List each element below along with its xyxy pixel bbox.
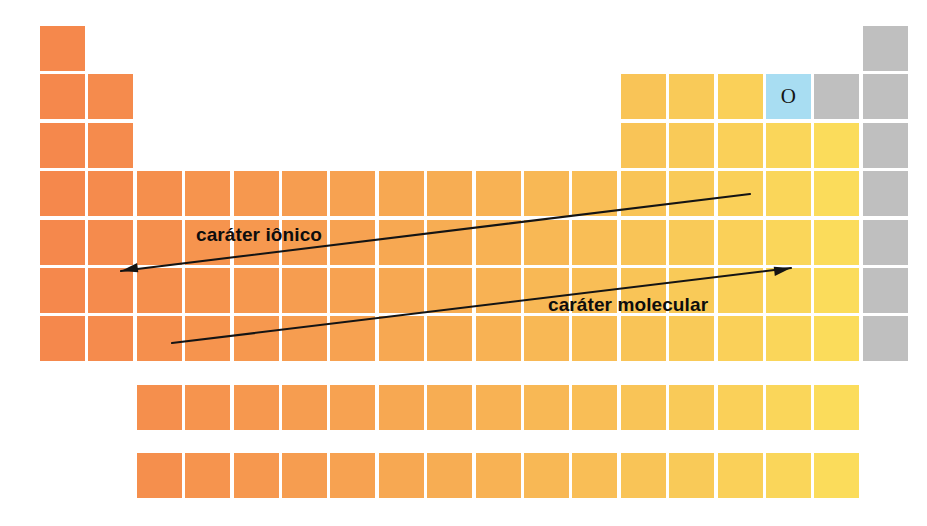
actinides-cell-10 (572, 453, 617, 498)
periodic-cell-r6-c4 (185, 268, 230, 313)
periodic-cell-r3-c13 (621, 123, 666, 168)
periodic-cell-r4-c13 (621, 171, 666, 216)
periodic-cell-r4-c9 (427, 171, 472, 216)
noble-gas-cell-r5 (863, 220, 908, 265)
lanthanides-cell-9 (524, 385, 569, 430)
periodic-cell-r7-c2 (88, 316, 133, 361)
periodic-cell-r5-c14 (669, 220, 714, 265)
periodic-cell-r7-c4 (185, 316, 230, 361)
periodic-cell-r4-c17 (814, 171, 859, 216)
lanthanides-cell-11 (621, 385, 666, 430)
periodic-cell-r7-c17 (814, 316, 859, 361)
periodic-cell-r4-c4 (185, 171, 230, 216)
periodic-cell-r5-c3 (137, 220, 182, 265)
periodic-cell-r5-c2 (88, 220, 133, 265)
actinides-cell-4 (282, 453, 327, 498)
noble-gas-cell-r2 (863, 74, 908, 119)
periodic-cell-r4-c8 (379, 171, 424, 216)
periodic-cell-r2-c14 (669, 74, 714, 119)
periodic-cell-r4-c2 (88, 171, 133, 216)
periodic-cell-r5-c15 (718, 220, 763, 265)
actinides-cell-6 (379, 453, 424, 498)
periodic-cell-r7-c1 (40, 316, 85, 361)
periodic-cell-r6-c7 (330, 268, 375, 313)
lanthanides-cell-1 (137, 385, 182, 430)
periodic-cell-r6-c1 (40, 268, 85, 313)
noble-gas-cell-r7 (863, 316, 908, 361)
periodic-cell-r6-c17 (814, 268, 859, 313)
periodic-cell-r1-c1 (40, 26, 85, 71)
element-symbol-o: O (766, 74, 811, 119)
periodic-cell-r6-c3 (137, 268, 182, 313)
periodic-cell-r4-c12 (572, 171, 617, 216)
periodic-cell-r3-c17 (814, 123, 859, 168)
noble-gas-cell-r6 (863, 268, 908, 313)
periodic-cell-r2-c17 (814, 74, 859, 119)
lanthanides-cell-13 (718, 385, 763, 430)
periodic-cell-r4-c6 (282, 171, 327, 216)
actinides-cell-2 (185, 453, 230, 498)
periodic-cell-r5-c7 (330, 220, 375, 265)
periodic-cell-r3-c14 (669, 123, 714, 168)
periodic-cell-r5-c8 (379, 220, 424, 265)
periodic-cell-r4-c16 (766, 171, 811, 216)
periodic-cell-r6-c15 (718, 268, 763, 313)
periodic-cell-r5-c17 (814, 220, 859, 265)
periodic-cell-r7-c14 (669, 316, 714, 361)
periodic-cell-r7-c5 (234, 316, 279, 361)
periodic-cell-r5-c1 (40, 220, 85, 265)
lanthanides-cell-12 (669, 385, 714, 430)
actinides-cell-9 (524, 453, 569, 498)
periodic-cell-r5-c13 (621, 220, 666, 265)
actinides-cell-15 (814, 453, 859, 498)
actinides-cell-12 (669, 453, 714, 498)
periodic-cell-r4-c5 (234, 171, 279, 216)
actinides-cell-7 (427, 453, 472, 498)
periodic-cell-r7-c3 (137, 316, 182, 361)
periodic-cell-r4-c1 (40, 171, 85, 216)
periodic-cell-r6-c9 (427, 268, 472, 313)
noble-gas-cell-r3 (863, 123, 908, 168)
actinides-cell-8 (476, 453, 521, 498)
highlighted-oxygen-cell: O (766, 74, 811, 119)
lanthanides-cell-10 (572, 385, 617, 430)
periodic-cell-r6-c10 (476, 268, 521, 313)
periodic-cell-r7-c11 (524, 316, 569, 361)
periodic-cell-r7-c6 (282, 316, 327, 361)
periodic-cell-r4-c14 (669, 171, 714, 216)
actinides-cell-11 (621, 453, 666, 498)
periodic-cell-r7-c8 (379, 316, 424, 361)
periodic-cell-r7-c13 (621, 316, 666, 361)
lanthanides-cell-2 (185, 385, 230, 430)
periodic-cell-r7-c10 (476, 316, 521, 361)
periodic-cell-r2-c15 (718, 74, 763, 119)
periodic-cell-r3-c1 (40, 123, 85, 168)
periodic-cell-r4-c11 (524, 171, 569, 216)
periodic-cell-r5-c9 (427, 220, 472, 265)
periodic-cell-r5-c11 (524, 220, 569, 265)
lanthanides-cell-8 (476, 385, 521, 430)
lanthanides-cell-7 (427, 385, 472, 430)
periodic-cell-r2-c1 (40, 74, 85, 119)
periodic-table-trend-figure: O caráter iônicocaráter molecular (0, 0, 927, 526)
periodic-cell-r4-c7 (330, 171, 375, 216)
periodic-cell-r2-c2 (88, 74, 133, 119)
periodic-cell-r4-c15 (718, 171, 763, 216)
periodic-cell-r7-c9 (427, 316, 472, 361)
actinides-cell-3 (234, 453, 279, 498)
arrow-label-molecular: caráter molecular (548, 294, 708, 316)
periodic-cell-r3-c15 (718, 123, 763, 168)
periodic-cell-r6-c5 (234, 268, 279, 313)
lanthanides-cell-14 (766, 385, 811, 430)
arrow-label-ionic: caráter iônico (196, 224, 322, 246)
periodic-cell-r5-c12 (572, 220, 617, 265)
lanthanides-cell-6 (379, 385, 424, 430)
lanthanides-cell-4 (282, 385, 327, 430)
lanthanides-cell-15 (814, 385, 859, 430)
periodic-cell-r4-c3 (137, 171, 182, 216)
periodic-cell-r6-c16 (766, 268, 811, 313)
periodic-cell-r4-c10 (476, 171, 521, 216)
noble-gas-cell-r1 (863, 26, 908, 71)
periodic-cell-r2-c13 (621, 74, 666, 119)
periodic-cell-r3-c16 (766, 123, 811, 168)
